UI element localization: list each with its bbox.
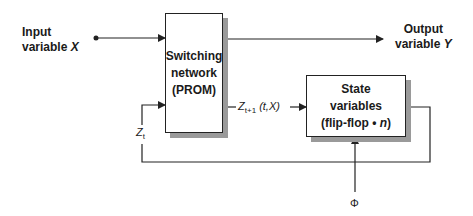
clock-label: Φ (350, 196, 359, 211)
input-label: Input variable X (22, 25, 79, 55)
state-variables-box: State variables (flip-flop • n) (306, 75, 406, 137)
current-state-label: Zt (136, 125, 145, 144)
feedback-arrow (142, 105, 165, 125)
output-label: Output variable Y (395, 22, 452, 52)
next-state-label: Zt+1 (t,X) (238, 99, 280, 118)
switching-network-box: Switching network (PROM) (165, 13, 223, 133)
